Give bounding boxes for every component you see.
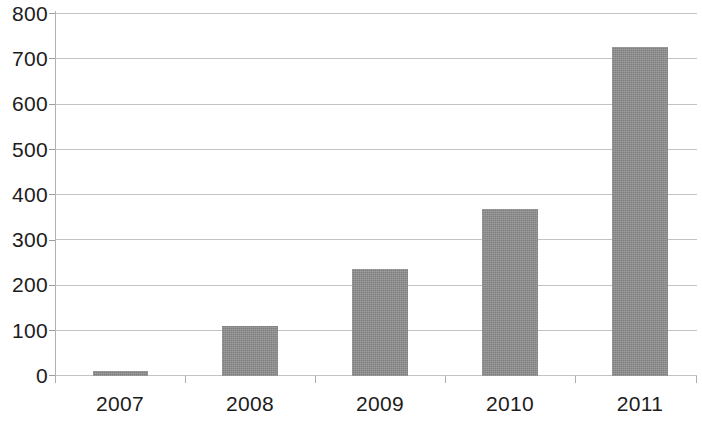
x-axis: 2007 2008 2009 2010 2011 [55, 0, 697, 425]
y-axis-tick-label: 800 [0, 3, 48, 24]
x-axis-label-2011: 2011 [580, 392, 700, 415]
y-axis-labels: 800 700 600 500 400 300 200 100 0 [0, 0, 48, 425]
y-axis-tick-label: 100 [0, 320, 48, 341]
x-axis-label-2008: 2008 [190, 392, 310, 415]
x-axis-tick-mark [55, 376, 56, 383]
x-axis-tick-mark [185, 376, 186, 383]
y-axis-tick-label: 200 [0, 274, 48, 295]
y-axis-tick-label: 600 [0, 93, 48, 114]
y-axis-tick-label: 400 [0, 184, 48, 205]
bar-chart: 800 700 600 500 400 300 200 100 0 [0, 0, 702, 425]
x-axis-tick-mark [445, 376, 446, 383]
y-axis-tick-label: 0 [0, 365, 48, 386]
x-axis-tick-mark [575, 376, 576, 383]
x-axis-label-2009: 2009 [320, 392, 440, 415]
y-axis-tick-label: 500 [0, 139, 48, 160]
x-axis-tick-mark [315, 376, 316, 383]
y-axis-tick-label: 700 [0, 48, 48, 69]
y-axis-tick-label: 300 [0, 229, 48, 250]
x-axis-label-2010: 2010 [450, 392, 570, 415]
x-axis-tick-mark [696, 376, 697, 383]
x-axis-label-2007: 2007 [60, 392, 180, 415]
